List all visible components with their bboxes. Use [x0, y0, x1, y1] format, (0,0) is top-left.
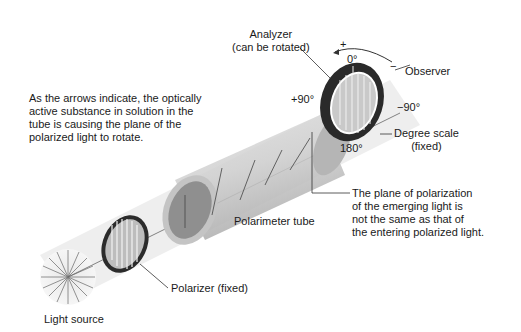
minus-90-label: −90° [397, 101, 420, 114]
description-line: active substance in solution in the [29, 105, 201, 118]
zero-degree-label: 0° [347, 53, 358, 66]
observer-label: Observer [405, 65, 450, 78]
180-degree-label: 180° [340, 142, 363, 155]
degree-scale-title: Degree scale [394, 127, 459, 140]
polarizer-label: Polarizer (fixed) [171, 282, 248, 295]
plus-90-label: +90° [291, 93, 314, 106]
minus-sign: − [390, 60, 396, 73]
plane-note-text: The plane of polarization of the emergin… [352, 187, 484, 239]
plane-note-line: The plane of polarization [352, 187, 484, 200]
plane-note-line: of the emerging light is [352, 200, 484, 213]
analyzer-label: Analyzer (can be rotated) [232, 28, 310, 54]
degree-scale-subtitle: (fixed) [394, 140, 459, 153]
degree-scale-label: Degree scale (fixed) [394, 127, 459, 153]
description-text: As the arrows indicate, the optically ac… [29, 92, 201, 144]
polarimeter-tube-label: Polarimeter tube [234, 215, 315, 228]
description-line: As the arrows indicate, the optically [29, 92, 201, 105]
description-line: tube is causing the plane of the [29, 118, 201, 131]
plane-note-line: not the same as that of [352, 213, 484, 226]
analyzer-title: Analyzer [232, 28, 310, 41]
analyzer-subtitle: (can be rotated) [232, 41, 310, 54]
description-line: polarized light to rotate. [29, 131, 201, 144]
light-source-label: Light source [44, 313, 104, 326]
plane-note-line: the entering polarized light. [352, 226, 484, 239]
plus-sign: + [340, 38, 346, 51]
